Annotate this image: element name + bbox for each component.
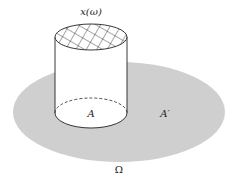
label-x-omega: x(ω) [80, 6, 102, 17]
label-A: A [86, 108, 94, 119]
label-omega: Ω [115, 164, 123, 175]
diagram-canvas: x(ω) A A′ Ω [0, 0, 226, 181]
label-A-complement: A′ [159, 108, 170, 119]
